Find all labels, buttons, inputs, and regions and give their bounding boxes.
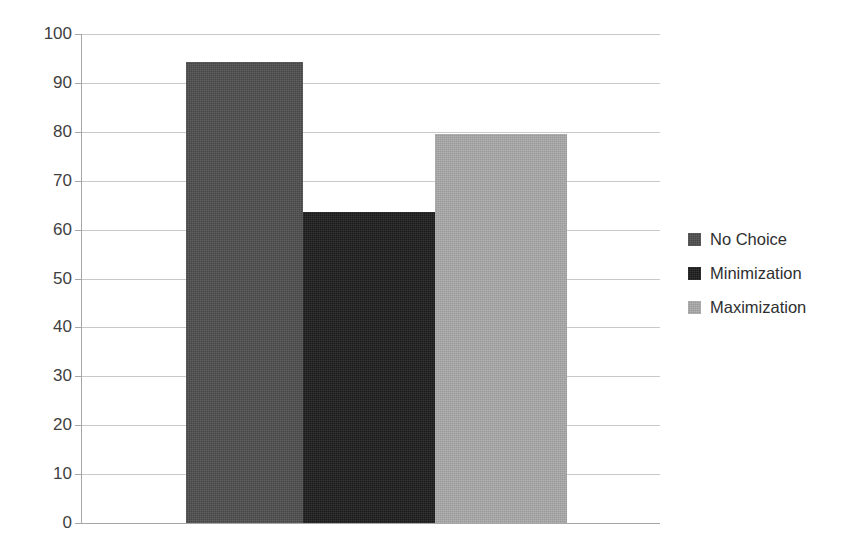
x-axis-line xyxy=(81,523,660,524)
y-tick-label: 80 xyxy=(32,123,72,140)
legend-item-minimization[interactable]: Minimization xyxy=(688,256,853,290)
y-tick-label: 70 xyxy=(32,172,72,189)
bar-chart: 0102030405060708090100 No ChoiceMinimiza… xyxy=(0,0,860,560)
gridline xyxy=(81,83,660,84)
bar-maximization xyxy=(435,134,567,523)
legend-swatch-icon xyxy=(688,233,701,246)
legend-label: Maximization xyxy=(710,299,806,316)
bar-minimization xyxy=(303,212,435,523)
y-tick-label: 10 xyxy=(32,465,72,482)
y-tick-label: 50 xyxy=(32,270,72,287)
bar-texture xyxy=(303,212,435,523)
y-tick-label: 60 xyxy=(32,221,72,238)
legend: No ChoiceMinimizationMaximization xyxy=(688,222,853,324)
y-tick-label: 30 xyxy=(32,367,72,384)
y-tick-label: 40 xyxy=(32,318,72,335)
gridline xyxy=(81,132,660,133)
gridline xyxy=(81,34,660,35)
legend-swatch-icon xyxy=(688,267,701,280)
y-axis-line xyxy=(81,34,82,524)
legend-label: Minimization xyxy=(710,265,802,282)
gridline xyxy=(81,181,660,182)
bar-texture xyxy=(186,62,303,523)
legend-item-no-choice[interactable]: No Choice xyxy=(688,222,853,256)
y-tick-label: 20 xyxy=(32,416,72,433)
legend-item-maximization[interactable]: Maximization xyxy=(688,290,853,324)
y-tick-label: 90 xyxy=(32,74,72,91)
bar-texture xyxy=(435,134,567,523)
y-tick-label: 0 xyxy=(32,514,72,531)
legend-label: No Choice xyxy=(710,231,787,248)
legend-swatch-icon xyxy=(688,301,701,314)
bar-no-choice xyxy=(186,62,303,523)
y-tick-label: 100 xyxy=(32,25,72,42)
